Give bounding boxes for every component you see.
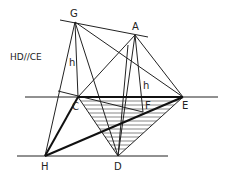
segment-gh — [45, 22, 75, 156]
segment-gd — [75, 22, 118, 156]
point-label-a: A — [132, 21, 139, 32]
shaded-triangle-cde — [70, 101, 190, 149]
point-label-h: H — [41, 161, 49, 172]
geometry-diagram: G A C E F H D h h HD//CE — [0, 0, 225, 177]
segment-gc-height — [75, 22, 78, 97]
parallel-annotation: HD//CE — [10, 52, 42, 62]
height-label-right: h — [143, 80, 149, 91]
segment-he-bold — [45, 97, 183, 156]
point-label-c: C — [72, 101, 79, 112]
point-label-e: E — [182, 100, 188, 111]
point-label-d: D — [114, 161, 122, 172]
height-label-left: h — [69, 57, 75, 68]
point-label-f: F — [145, 100, 151, 111]
segment-ad-left — [118, 45, 128, 156]
segment-af-height — [135, 35, 143, 112]
point-label-g: G — [70, 8, 78, 19]
